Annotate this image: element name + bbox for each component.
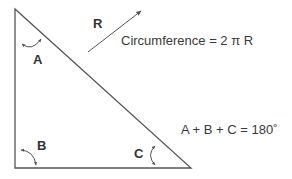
angle-c-arc-icon <box>151 146 156 165</box>
triangle-diagram: A B C R Circumference = 2 π R A + B + C … <box>0 0 292 179</box>
angle-sum-formula: A + B + C = 180˚ <box>181 122 277 137</box>
angle-a-arc-icon <box>22 39 41 47</box>
circumference-formula: Circumference = 2 π R <box>121 33 253 48</box>
angle-b-label: B <box>37 138 46 153</box>
radius-label: R <box>93 16 103 31</box>
angle-b-arc-icon <box>21 150 36 165</box>
angle-c-label: C <box>134 146 144 161</box>
angle-a-label: A <box>33 52 43 67</box>
